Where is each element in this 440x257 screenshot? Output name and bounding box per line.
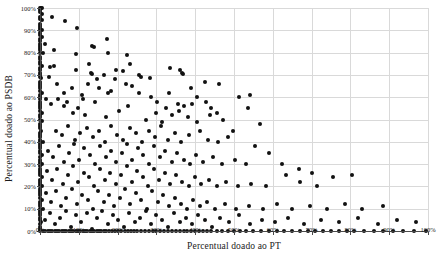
data-point [55,82,59,86]
data-point [182,158,186,162]
data-point [74,213,78,217]
data-point [154,213,158,217]
data-point [52,64,56,68]
y-axis-line [40,8,41,232]
data-point [227,220,231,224]
y-tick-mark [37,75,40,76]
data-point [315,184,319,188]
data-point [221,118,225,122]
data-point [108,171,112,175]
data-point [74,68,78,72]
data-point [155,100,159,104]
x-tick-label: 50% [216,226,252,234]
gridline-vertical [273,8,274,232]
data-point [290,207,294,211]
data-point [43,42,47,46]
y-axis-label: Percentual doado ao PSDB [0,0,18,257]
data-point [79,220,83,224]
data-point [83,113,87,117]
data-point [76,180,80,184]
data-point [43,218,47,222]
x-tick-label: 60% [255,226,291,234]
data-point [70,86,74,90]
data-point [130,180,134,184]
data-point [195,120,199,124]
data-point [114,160,118,164]
data-point [187,133,191,137]
data-point [117,109,121,113]
data-point [103,140,107,144]
data-point [55,167,59,171]
data-point [286,216,290,220]
data-point [297,167,301,171]
data-point [170,113,174,117]
data-point [298,180,302,184]
data-point [98,167,102,171]
data-point [204,100,208,104]
data-point [95,77,99,81]
data-point [356,216,360,220]
data-point [50,178,54,182]
data-point [310,171,314,175]
data-point [194,153,198,157]
data-point [179,140,183,144]
data-point [163,171,167,175]
data-point [150,189,154,193]
data-point [163,149,167,153]
data-point [215,111,219,115]
x-tick-label: 100% [410,226,440,234]
data-point [253,144,257,148]
y-tick-mark [37,30,40,31]
data-point [167,91,171,95]
data-point [128,62,132,66]
data-point [161,193,165,197]
data-point [138,216,142,220]
data-point [86,198,90,202]
data-point [216,140,220,144]
data-point [201,160,205,164]
data-point [284,173,288,177]
data-point [154,111,158,115]
data-point [158,155,162,159]
data-point [56,97,60,101]
scatter-chart-figure: Percentual doado ao PSDB Percentual doad… [0,0,440,257]
y-tick-label: 50% [2,116,36,123]
data-point [128,202,132,206]
y-tick-mark [37,97,40,98]
gridline-vertical [350,8,351,232]
data-point [92,45,96,49]
data-point [275,202,279,206]
y-tick-mark [37,120,40,121]
data-point [51,155,55,159]
data-point [88,153,92,157]
data-point [267,151,271,155]
data-point [144,118,148,122]
data-point [125,164,129,168]
data-point [237,95,241,99]
data-point [54,129,58,133]
data-point [174,173,178,177]
data-point [343,202,347,206]
data-point [58,216,62,220]
data-point [91,207,95,211]
data-point [244,162,248,166]
data-point [195,95,199,99]
data-point [111,213,115,217]
data-point [148,76,152,80]
data-point [246,106,250,110]
data-point [118,196,122,200]
y-tick-mark [37,142,40,143]
data-point [360,207,364,211]
plot-area [40,8,428,232]
data-point [141,175,145,179]
data-point [106,91,110,95]
data-point [211,155,215,159]
data-point [85,126,89,130]
data-point [177,109,181,113]
data-point [119,173,123,177]
data-point [130,84,134,88]
data-point [173,131,177,135]
y-tick-mark [37,186,40,187]
data-point [93,162,97,166]
data-point [203,218,207,222]
